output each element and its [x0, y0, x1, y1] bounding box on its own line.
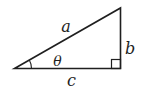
triangle-figure: a b c θ — [0, 0, 143, 94]
angle-arc-icon — [29, 60, 31, 68]
angle-theta-label: θ — [53, 53, 62, 69]
side-c-label: c — [67, 71, 76, 90]
side-b-label: b — [125, 39, 135, 58]
side-a-label: a — [61, 17, 71, 36]
right-angle-marker-icon — [112, 60, 121, 69]
triangle-svg: a b c θ — [0, 0, 143, 94]
